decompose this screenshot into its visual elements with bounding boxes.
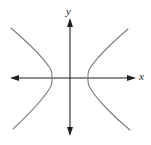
y-axis-label: y bbox=[66, 6, 71, 17]
hyperbola-figure: y x bbox=[0, 0, 151, 145]
x-axis-arrow-left-icon bbox=[10, 75, 19, 81]
y-axis-arrow-down-icon bbox=[67, 127, 73, 136]
x-axis-label: x bbox=[139, 71, 144, 82]
x-axis bbox=[10, 75, 136, 81]
hyperbola-right-branch bbox=[88, 29, 130, 130]
y-axis-arrow-up-icon bbox=[67, 18, 73, 27]
x-axis-arrow-right-icon bbox=[127, 75, 136, 81]
y-axis bbox=[67, 18, 73, 136]
plot-canvas bbox=[0, 0, 151, 145]
